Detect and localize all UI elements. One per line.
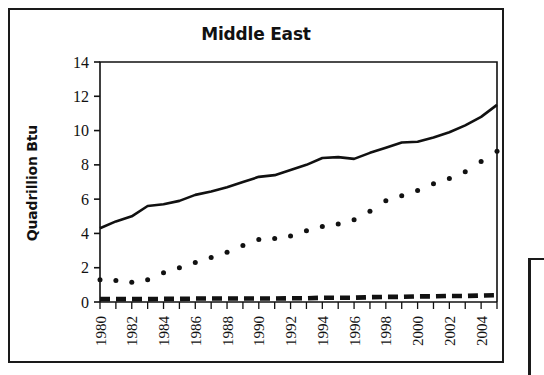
- svg-text:2000: 2000: [410, 316, 426, 346]
- data-point: [352, 217, 357, 222]
- data-point: [145, 277, 150, 282]
- svg-text:2004: 2004: [474, 316, 490, 347]
- data-point: [256, 237, 261, 242]
- x-tick-labels-group: 1980198219841986198819901992199419961998…: [93, 316, 490, 347]
- series-line-dashed: [100, 295, 497, 299]
- data-point: [383, 198, 388, 203]
- data-point: [415, 188, 420, 193]
- data-point: [209, 255, 214, 260]
- data-point: [272, 236, 277, 241]
- data-series-group: [98, 105, 500, 299]
- data-point: [320, 224, 325, 229]
- data-point: [447, 176, 452, 181]
- svg-text:8: 8: [81, 156, 89, 173]
- data-point: [129, 280, 134, 285]
- svg-text:6: 6: [81, 191, 89, 208]
- svg-text:1994: 1994: [315, 316, 331, 347]
- data-point: [177, 265, 182, 270]
- svg-text:1992: 1992: [283, 316, 299, 346]
- data-point: [304, 228, 309, 233]
- data-point: [98, 277, 103, 282]
- data-point: [288, 234, 293, 239]
- data-point: [431, 181, 436, 186]
- data-point: [240, 243, 245, 248]
- svg-text:0: 0: [81, 294, 89, 311]
- svg-text:1998: 1998: [378, 316, 394, 346]
- plot-canvas: 02468101214 1980198219841986198819901992…: [0, 0, 544, 375]
- tick-marks-group: [94, 62, 497, 309]
- svg-text:1988: 1988: [220, 316, 236, 346]
- data-point: [479, 159, 484, 164]
- data-point: [193, 260, 198, 265]
- data-point: [336, 222, 341, 227]
- svg-text:12: 12: [73, 88, 89, 105]
- figure-root: Middle East Quadrillion Btu 02468101214 …: [0, 0, 544, 375]
- svg-text:1982: 1982: [124, 316, 140, 346]
- svg-text:14: 14: [73, 54, 89, 71]
- svg-text:2002: 2002: [442, 316, 458, 346]
- svg-text:2: 2: [81, 259, 89, 276]
- svg-text:1996: 1996: [347, 316, 363, 347]
- y-tick-labels-group: 02468101214: [73, 54, 89, 311]
- data-point: [463, 169, 468, 174]
- svg-text:1980: 1980: [93, 316, 109, 346]
- data-point: [113, 278, 118, 283]
- svg-text:1984: 1984: [156, 316, 172, 347]
- svg-text:4: 4: [81, 225, 89, 242]
- data-point: [161, 270, 166, 275]
- series-line-solid: [100, 105, 497, 228]
- axes-group: [100, 62, 497, 302]
- svg-text:1990: 1990: [251, 316, 267, 346]
- data-point: [225, 250, 230, 255]
- data-point: [495, 149, 500, 154]
- svg-text:10: 10: [73, 122, 89, 139]
- data-point: [367, 209, 372, 214]
- data-point: [399, 193, 404, 198]
- svg-text:1986: 1986: [188, 316, 204, 347]
